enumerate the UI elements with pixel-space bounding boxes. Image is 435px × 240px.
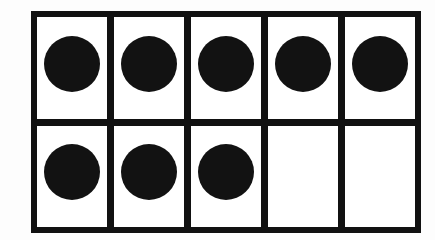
ten-frame-canvas <box>0 0 435 240</box>
ten-frame-cell-r1c4[interactable] <box>268 17 338 119</box>
counter-dot[interactable] <box>275 36 331 92</box>
ten-frame-cell-r2c1[interactable] <box>37 126 107 228</box>
counter-dot[interactable] <box>352 36 408 92</box>
counter-dot[interactable] <box>44 144 100 200</box>
ten-frame-cell-r1c1[interactable] <box>37 17 107 119</box>
ten-frame-cell-r1c2[interactable] <box>114 17 184 119</box>
counter-dot[interactable] <box>121 36 177 92</box>
ten-frame-cell-r1c3[interactable] <box>191 17 261 119</box>
ten-frame-cell-r2c5[interactable] <box>345 126 415 228</box>
ten-frame-cell-r1c5[interactable] <box>345 17 415 119</box>
counter-dot[interactable] <box>198 36 254 92</box>
ten-frame-cell-r2c2[interactable] <box>114 126 184 228</box>
counter-dot[interactable] <box>121 144 177 200</box>
ten-frame-cell-r2c4[interactable] <box>268 126 338 228</box>
counter-dot[interactable] <box>44 36 100 92</box>
ten-frame-grid <box>31 11 421 233</box>
ten-frame-cell-r2c3[interactable] <box>191 126 261 228</box>
counter-dot[interactable] <box>198 144 254 200</box>
